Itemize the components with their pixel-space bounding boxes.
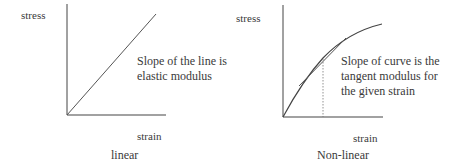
nonlinear-annotation-line3: the given strain (341, 84, 415, 99)
linear-y-axis-label: stress (21, 9, 45, 22)
linear-annotation-line2: elastic modulus (137, 69, 212, 84)
linear-x-axis-label: strain (137, 130, 161, 143)
nonlinear-y-axis-label: stress (236, 12, 260, 25)
linear-caption: linear (111, 149, 138, 162)
nonlinear-caption: Non-linear (317, 149, 369, 162)
nonlinear-annotation-line2: tangent modulus for (341, 69, 438, 84)
linear-annotation-line1: Slope of the line is (137, 54, 227, 69)
nonlinear-x-axis-label: strain (353, 132, 377, 145)
tangent-line (299, 38, 346, 86)
nonlinear-annotation-line1: Slope of curve is the (341, 54, 440, 69)
